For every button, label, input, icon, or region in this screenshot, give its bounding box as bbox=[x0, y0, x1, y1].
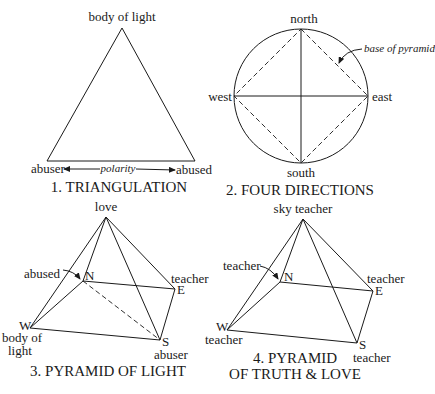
edge-n-w bbox=[227, 282, 280, 330]
diagram-2-title: 2. FOUR DIRECTIONS bbox=[226, 182, 374, 198]
west-label: west bbox=[208, 89, 232, 104]
north-label: N bbox=[284, 269, 294, 284]
north-role-label: teacher bbox=[223, 258, 261, 273]
edge-e-s bbox=[160, 289, 175, 340]
edge-e-s bbox=[357, 291, 373, 343]
apex-label: body of light bbox=[88, 9, 156, 24]
edge-w-s bbox=[30, 328, 160, 340]
east-label: E bbox=[177, 282, 185, 297]
four-directions-diagram: north east west south base of pyramid 2.… bbox=[208, 11, 435, 198]
pyramid-of-truth-and-love-diagram: sky teacher teacher N teacher E W teache… bbox=[205, 201, 405, 382]
pyramid-of-light-diagram: love abused N teacher E W body of light … bbox=[2, 199, 209, 379]
abuser-label: abuser bbox=[31, 161, 66, 176]
edge-apex-s bbox=[106, 217, 160, 340]
east-label: east bbox=[372, 89, 393, 104]
north-label: N bbox=[85, 268, 95, 283]
diagram-3-title: 3. PYRAMID OF LIGHT bbox=[30, 363, 186, 379]
diagram-1-title: 1. TRIANGULATION bbox=[51, 179, 188, 195]
triangulation-diagram: body of light abuser abused polarity 1. … bbox=[31, 9, 213, 195]
edge-apex-s bbox=[303, 219, 357, 343]
diagram-canvas: body of light abuser abused polarity 1. … bbox=[0, 0, 435, 394]
south-label: south bbox=[287, 165, 316, 180]
west-role-label: teacher bbox=[205, 332, 243, 347]
south-role-label: teacher bbox=[353, 350, 391, 365]
edge-w-s bbox=[227, 330, 357, 343]
apex-label: sky teacher bbox=[274, 201, 334, 216]
edge-n-w bbox=[30, 281, 83, 328]
east-role-label: teacher bbox=[367, 271, 405, 286]
diagram-4-title-line1: 4. PYRAMID bbox=[253, 350, 337, 366]
edge-n-e bbox=[83, 281, 175, 289]
edge-n-s-hidden bbox=[83, 281, 160, 340]
abused-label: abused bbox=[176, 162, 213, 177]
polarity-label: polarity bbox=[100, 162, 136, 174]
west-role-label-line2: light bbox=[8, 343, 32, 358]
edge-n-e bbox=[280, 282, 373, 291]
triangle-shape bbox=[47, 28, 195, 161]
south-role-label: abuser bbox=[154, 347, 189, 362]
north-role-label: abused bbox=[24, 266, 61, 281]
edge-apex-e bbox=[303, 219, 373, 291]
east-label: E bbox=[375, 283, 383, 298]
diagram-4-title-line2: OF TRUTH & LOVE bbox=[229, 366, 361, 382]
base-of-pyramid-label: base of pyramid bbox=[364, 42, 435, 54]
north-label: north bbox=[290, 11, 318, 26]
edge-apex-e bbox=[106, 217, 175, 289]
polarity-arrow-right bbox=[136, 169, 175, 170]
abused-arrow bbox=[63, 270, 80, 279]
apex-label: love bbox=[95, 199, 118, 214]
